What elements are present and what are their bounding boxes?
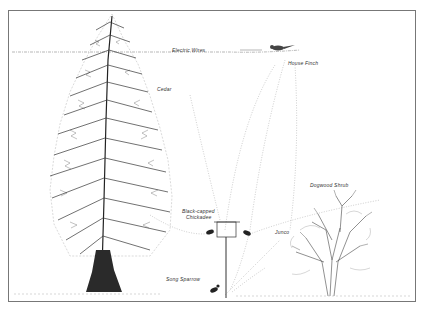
label-song-sparrow: Song Sparrow <box>166 276 200 282</box>
ground-line <box>14 294 410 296</box>
chickadee-bird-icon <box>205 229 251 237</box>
dogwood-shrub <box>292 190 372 296</box>
label-chickadee-line2: Chickadee <box>186 214 211 220</box>
cedar-tree <box>50 16 170 270</box>
label-house-finch: House Finch <box>288 60 318 66</box>
dogwood-branch-texture <box>290 211 370 275</box>
electric-wires <box>12 50 300 52</box>
house-finch-bird-icon <box>270 45 295 51</box>
label-dogwood-shrub: Dogwood Shrub <box>310 182 348 188</box>
bird-habitat-illustration <box>0 0 422 310</box>
cedar-trunk <box>86 250 122 292</box>
song-sparrow-bird-icon <box>209 284 219 293</box>
flight-paths <box>150 60 380 295</box>
label-junco: Junco <box>275 229 289 235</box>
label-cedar: Cedar <box>157 86 172 92</box>
label-electric-wires: Electric Wires <box>172 47 205 53</box>
cedar-needle-texture <box>60 40 158 228</box>
